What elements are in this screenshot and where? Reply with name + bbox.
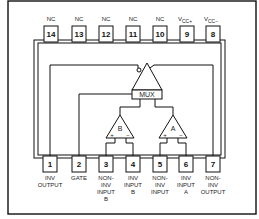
pin-label: VCC+ bbox=[178, 16, 192, 24]
pin-number: 4 bbox=[131, 160, 136, 169]
pin-12: 12 NC bbox=[99, 16, 113, 42]
pin-label-line: B bbox=[104, 196, 108, 202]
pin-1: 1 INV OUTPUT bbox=[38, 156, 63, 188]
pin-label-line: NON- bbox=[205, 175, 220, 181]
pin-label-line: INPUT bbox=[177, 182, 195, 188]
mux-triangle bbox=[132, 63, 162, 90]
pin-label-line: INV bbox=[181, 175, 191, 181]
pin-number: 14 bbox=[47, 30, 56, 39]
pin-number: 13 bbox=[75, 30, 84, 39]
minus-sign: − bbox=[126, 132, 130, 138]
pin-label-line: INV bbox=[45, 175, 55, 181]
pin-label-line: INV bbox=[155, 182, 165, 188]
pin-11: 11 NC bbox=[126, 16, 140, 42]
pinout-diagram: 14 NC 13 NC 12 NC 11 NC 10 NC 9 VCC+ bbox=[0, 0, 259, 219]
pin-8: 8 VCC− bbox=[204, 16, 220, 42]
pin-5: 5 NON- INV INPUT bbox=[151, 156, 169, 195]
bottom-pins: 1 INV OUTPUT 2 GATE 3 NON- INV INPUT B 4… bbox=[38, 156, 226, 202]
plus-sign: + bbox=[163, 132, 167, 138]
pin-label-line: OUTPUT bbox=[38, 182, 63, 188]
pin-label: VCC− bbox=[204, 16, 218, 24]
pin-number: 2 bbox=[77, 160, 82, 169]
mux-block: MUX bbox=[132, 63, 162, 99]
amp-b: B + − bbox=[106, 115, 134, 138]
pin-number: 10 bbox=[156, 30, 165, 39]
pin-label: NC bbox=[129, 16, 138, 22]
package-outline bbox=[34, 40, 225, 158]
wire-inv-output bbox=[50, 65, 138, 156]
pin-label-line: NON- bbox=[152, 175, 167, 181]
pin-label-line: NON- bbox=[98, 175, 113, 181]
amp-a-label: A bbox=[171, 125, 176, 132]
pin-label-line: INV bbox=[128, 175, 138, 181]
pin-7: 7 NON- INV OUTPUT bbox=[201, 156, 226, 195]
wire-mux-b bbox=[120, 98, 140, 115]
pin-9: 9 VCC+ bbox=[178, 16, 194, 42]
pin-number: 7 bbox=[211, 160, 216, 169]
pin-6: 6 INV INPUT A bbox=[177, 156, 195, 195]
pin-3: 3 NON- INV INPUT B bbox=[97, 156, 115, 202]
pin-label-line: INV bbox=[101, 182, 111, 188]
pin-number: 11 bbox=[129, 30, 138, 39]
pin-13: 13 NC bbox=[72, 16, 86, 42]
pin-label-line: OUTPUT bbox=[201, 189, 226, 195]
pin-label-line: GATE bbox=[71, 175, 87, 181]
pin-label-line: INV bbox=[208, 182, 218, 188]
wiring bbox=[50, 65, 213, 156]
wire-a-minus bbox=[178, 138, 186, 156]
pin-number: 8 bbox=[211, 30, 216, 39]
pin-14: 14 NC bbox=[44, 16, 58, 42]
amp-b-label: B bbox=[118, 125, 123, 132]
pin-label-line: INPUT bbox=[151, 189, 169, 195]
pin-label: NC bbox=[75, 16, 84, 22]
mux-label: MUX bbox=[139, 91, 155, 98]
wire-noninv-output bbox=[150, 65, 213, 156]
pin-label: NC bbox=[102, 16, 111, 22]
pin-number: 9 bbox=[185, 30, 190, 39]
pin-4: 4 INV INPUT B bbox=[124, 156, 142, 195]
wire-mux-a bbox=[155, 98, 173, 115]
pin-number: 1 bbox=[48, 160, 53, 169]
wire-b-minus bbox=[126, 138, 133, 156]
pin-number: 3 bbox=[104, 160, 109, 169]
amp-a: A + − bbox=[159, 115, 187, 138]
inverting-bubble-icon bbox=[137, 68, 141, 72]
pin-number: 6 bbox=[184, 160, 189, 169]
pin-label: NC bbox=[156, 16, 165, 22]
pin-label-line: B bbox=[131, 189, 135, 195]
pin-number: 5 bbox=[158, 160, 163, 169]
pin-2: 2 GATE bbox=[71, 156, 87, 181]
wire-a-plus bbox=[160, 138, 167, 156]
minus-sign: − bbox=[179, 132, 183, 138]
pin-label-line: A bbox=[184, 189, 188, 195]
pin-number: 12 bbox=[102, 30, 111, 39]
pin-label: NC bbox=[47, 16, 56, 22]
pin-label-line: INPUT bbox=[124, 182, 142, 188]
pin-label-line: INPUT bbox=[97, 189, 115, 195]
pin-10: 10 NC bbox=[153, 16, 167, 42]
wire-b-plus bbox=[106, 138, 115, 156]
plus-sign: + bbox=[110, 132, 114, 138]
top-pins: 14 NC 13 NC 12 NC 11 NC 10 NC 9 VCC+ bbox=[44, 16, 220, 42]
